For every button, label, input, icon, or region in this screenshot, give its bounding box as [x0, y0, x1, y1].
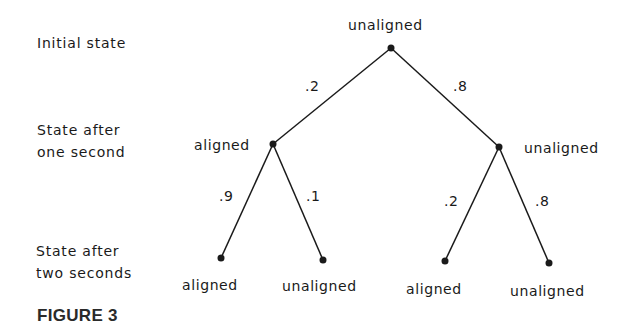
node-label-l2-ll: aligned [182, 277, 238, 294]
row-label-two-seconds-line2: two seconds [36, 262, 132, 284]
prob-root-left: .2 [305, 78, 319, 94]
figure-caption: FIGURE 3 [37, 306, 118, 326]
prob-right-rl: .2 [444, 193, 458, 209]
node-label-l2-rl: aligned [406, 281, 462, 298]
edge-root-left [273, 48, 391, 144]
node-label-l1-left: aligned [194, 137, 250, 154]
node-dot-l1-left [270, 141, 277, 148]
node-label-root: unaligned [348, 17, 423, 34]
node-label-l2-lr: unaligned [282, 278, 357, 295]
node-label-l2-rr: unaligned [510, 283, 585, 300]
row-label-initial-text: Initial state [37, 35, 126, 51]
node-dot-l2-ll [218, 255, 225, 262]
row-label-two-seconds: State after two seconds [36, 240, 132, 284]
row-label-one-second-line2: one second [37, 141, 125, 163]
node-label-l1-right: unaligned [524, 140, 599, 157]
row-label-one-second-line1: State after [37, 119, 125, 141]
prob-left-lr: .1 [306, 188, 320, 204]
row-label-two-seconds-line1: State after [36, 240, 132, 262]
node-dot-l2-rl [442, 258, 449, 265]
node-dot-l1-right [496, 144, 503, 151]
row-label-initial: Initial state [37, 32, 126, 54]
node-dot-root [388, 45, 395, 52]
edge-root-right [391, 48, 499, 147]
prob-left-ll: .9 [219, 188, 233, 204]
row-label-one-second: State after one second [37, 119, 125, 163]
prob-right-rr: .8 [535, 193, 549, 209]
node-dot-l2-lr [320, 257, 327, 264]
prob-root-right: .8 [453, 78, 467, 94]
node-dot-l2-rr [546, 260, 553, 267]
